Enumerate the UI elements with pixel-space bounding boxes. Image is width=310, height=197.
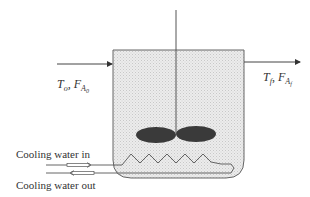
inlet-label: To,FA0 [57, 77, 89, 94]
cooling-water-out-label: Cooling water out [16, 179, 95, 191]
cooling-in-arrow-icon [67, 163, 91, 168]
impeller-blade-left [136, 127, 176, 143]
reactor-vessel [113, 50, 244, 178]
cooling-out-arrow-icon [70, 171, 94, 176]
cooling-water-in-label: Cooling water in [16, 148, 90, 160]
impeller-blade-right [176, 126, 216, 142]
cstr-diagram: To,FA0 Tf,FAf Cooling water in Cooling w… [0, 0, 310, 197]
outlet-label: Tf,FAf [263, 70, 293, 87]
